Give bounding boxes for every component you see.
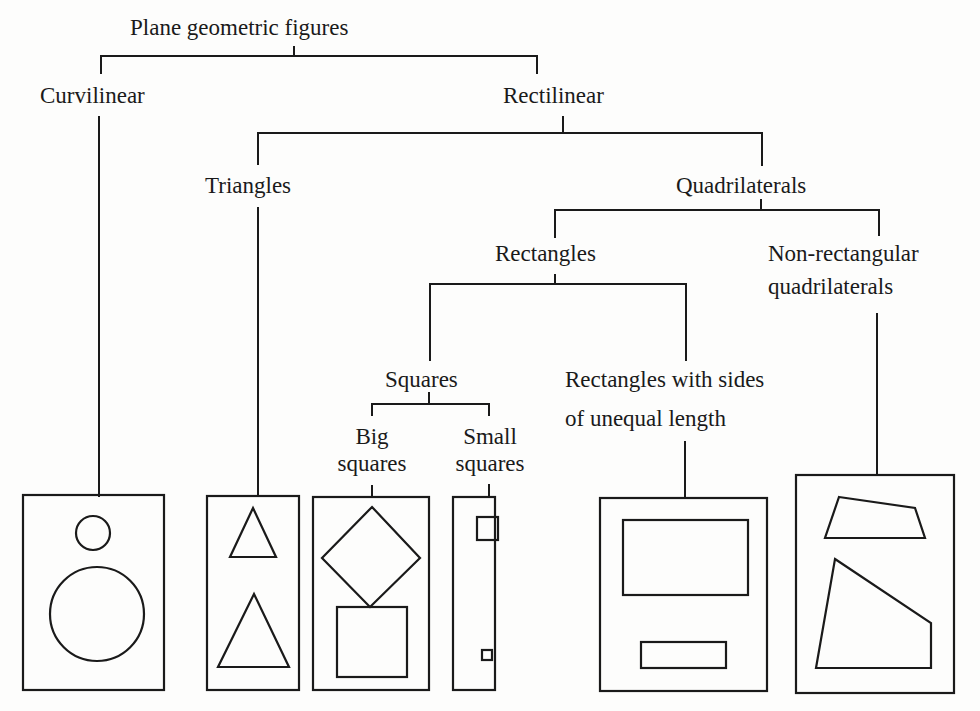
quadrilaterals-connector bbox=[555, 199, 879, 238]
big-squares-line1: Big bbox=[322, 423, 422, 450]
non-rectangular-label: Non-rectangular quadrilaterals bbox=[768, 240, 919, 300]
large-triangle-shape bbox=[218, 594, 289, 667]
tiny-square-shape bbox=[482, 650, 492, 660]
root-connector bbox=[101, 46, 537, 74]
unequal-rectangles-line2: of unequal length bbox=[565, 405, 764, 432]
small-squares-line2: squares bbox=[440, 450, 540, 477]
diamond-shape bbox=[322, 507, 420, 607]
unequal-rectangles-line1: Rectangles with sides bbox=[565, 366, 764, 393]
squares-connector bbox=[372, 392, 489, 416]
rectangles-connector bbox=[430, 274, 686, 361]
non-rectangular-line1: Non-rectangular bbox=[768, 240, 919, 267]
big-squares-line2: squares bbox=[322, 450, 422, 477]
unequal-rectangles-label: Rectangles with sides of unequal length bbox=[565, 366, 764, 432]
tree-connectors bbox=[0, 0, 980, 711]
quadrilaterals-label: Quadrilaterals bbox=[676, 172, 806, 199]
small-squares-label: Small squares bbox=[440, 423, 540, 477]
trapezoid-shape bbox=[825, 497, 925, 538]
big-squares-panel bbox=[313, 497, 429, 690]
irregular-quadrilateral-shape bbox=[816, 559, 931, 668]
small-squares-line1: Small bbox=[440, 423, 540, 450]
taxonomy-diagram: Plane geometric figures Curvilinear Rect… bbox=[0, 0, 980, 711]
rectilinear-label: Rectilinear bbox=[503, 82, 604, 109]
big-square-shape bbox=[337, 607, 407, 677]
big-squares-label: Big squares bbox=[322, 423, 422, 477]
small-triangle-shape bbox=[230, 508, 276, 557]
curvilinear-label: Curvilinear bbox=[40, 82, 145, 109]
non-rectangular-line2: quadrilaterals bbox=[768, 273, 919, 300]
triangles-label: Triangles bbox=[205, 172, 291, 199]
root-label: Plane geometric figures bbox=[130, 14, 348, 41]
squares-label: Squares bbox=[385, 366, 458, 393]
rectangles-label: Rectangles bbox=[495, 240, 596, 267]
large-circle-shape bbox=[50, 567, 144, 661]
thin-rectangle-shape bbox=[641, 642, 726, 668]
wide-rectangle-shape bbox=[623, 520, 748, 595]
small-circle-shape bbox=[76, 516, 110, 550]
rectilinear-connector bbox=[258, 116, 762, 166]
